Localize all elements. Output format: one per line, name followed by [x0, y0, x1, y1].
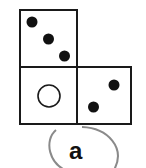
dot-icon [88, 102, 99, 113]
hollow-circle-icon [38, 85, 60, 107]
dot-icon [109, 80, 120, 91]
face-bottom-left [20, 67, 77, 124]
option-label: a [69, 139, 82, 163]
dot-icon [59, 51, 70, 62]
label-ellipse [49, 127, 117, 168]
dot-icon [27, 17, 38, 28]
dot-icon [43, 34, 54, 45]
face-bottom-right [77, 67, 131, 124]
